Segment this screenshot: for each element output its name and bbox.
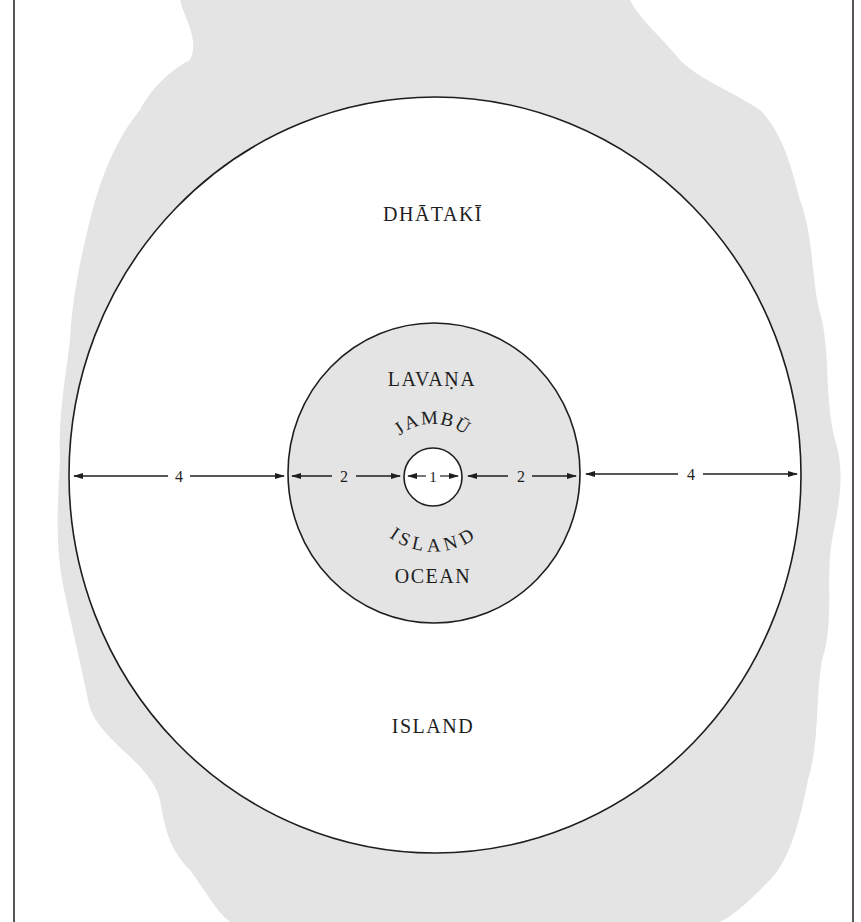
center-width-label: 1 bbox=[429, 469, 437, 485]
right-ocean-width-label: 2 bbox=[517, 468, 525, 485]
dhataki-island-label: ISLAND bbox=[392, 715, 474, 737]
dhataki-label: DHĀTAKĪ bbox=[383, 203, 483, 225]
concentric-continents-diagram: DHĀTAKĪ ISLAND LAVAṆA OCEAN JAMBŪ ISLAND… bbox=[0, 0, 861, 922]
diagram-frame: DHĀTAKĪ ISLAND LAVAṆA OCEAN JAMBŪ ISLAND… bbox=[0, 0, 861, 922]
left-outer-width-label: 4 bbox=[175, 468, 183, 485]
ocean-label: OCEAN bbox=[395, 565, 471, 587]
left-ocean-width-label: 2 bbox=[340, 468, 348, 485]
lavana-label: LAVAṆA bbox=[388, 368, 476, 390]
right-outer-width-label: 4 bbox=[687, 466, 695, 483]
